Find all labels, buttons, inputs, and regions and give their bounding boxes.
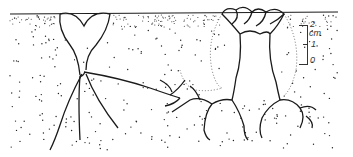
scale-label-unit: cm [309,29,321,38]
scale-label-1: 1 [311,40,316,49]
left-plant [50,13,185,150]
scale-tick-middle [303,44,308,45]
soil-diagram [0,0,353,157]
soil-surface [10,12,338,14]
scale-bar [299,25,308,65]
right-plant [172,7,316,140]
scale-label-0: 0 [310,56,315,65]
